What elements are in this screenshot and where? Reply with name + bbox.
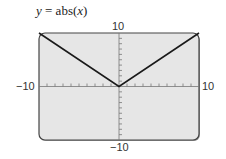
- x-min-label: −10: [16, 80, 35, 92]
- x-max-label: 10: [202, 80, 214, 92]
- y-min-label: −10: [110, 141, 129, 153]
- y-max-label: 10: [112, 20, 124, 32]
